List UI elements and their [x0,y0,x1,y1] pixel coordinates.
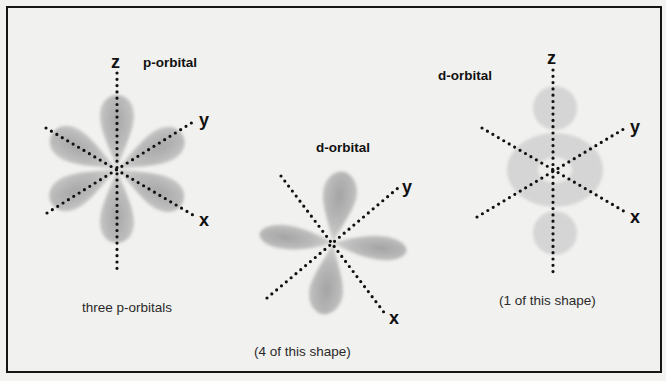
x-axis-label: x [199,210,209,230]
panel-caption: (1 of this shape) [499,293,596,308]
y-axis-label: y [402,177,412,197]
panel-title: p-orbital [143,55,197,70]
x-axis-label: x [630,207,640,227]
panel-title: d-orbital [316,140,370,155]
y-axis-label: y [199,110,209,130]
z-axis-label: z [547,48,556,68]
panel-caption: three p-orbitals [82,300,172,315]
d-orbital-dz2-panel: z y x d-orbital (1 of this shape) [438,48,640,308]
panel-caption: (4 of this shape) [254,344,351,359]
orbital-diagram: z y x p-orbital three p-orbitals y x d-o… [0,0,666,381]
d-orbital-cloverleaf-panel: y x d-orbital (4 of this shape) [254,140,412,359]
lobe-top [533,86,577,130]
p-orbital-panel: z y x p-orbital three p-orbitals [43,52,209,315]
lobe-bottom [306,241,350,317]
lobe-top [316,169,360,245]
dz2-shape [507,86,603,255]
cloverleaf-lobes [258,169,408,316]
lobe-bottom [533,211,577,255]
y-axis-label: y [630,117,640,137]
panel-title: d-orbital [438,68,492,83]
z-axis-label: z [111,52,120,72]
torus-hole [538,157,572,183]
lobe-right [332,231,408,263]
x-axis-label: x [389,308,399,328]
lobe-left [258,222,334,255]
